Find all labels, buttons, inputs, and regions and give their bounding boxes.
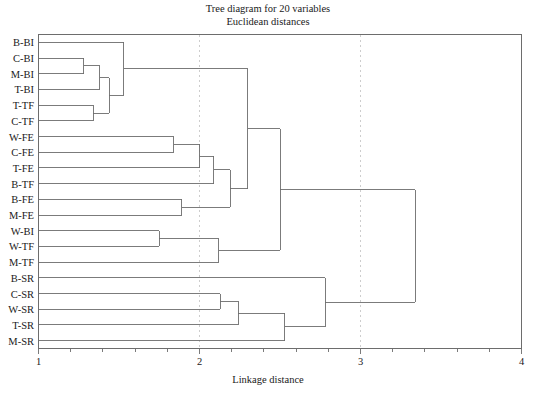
x-tick-label: 3 [351, 356, 371, 367]
leaf-label: M-FE [0, 210, 34, 221]
x-tick-label: 2 [190, 356, 210, 367]
leaf-label: M-TF [0, 257, 34, 268]
leaf-label: C-TF [0, 115, 34, 126]
leaf-label: M-SR [0, 335, 34, 346]
chart-title: Tree diagram for 20 variables [0, 2, 536, 15]
leaf-label: B-TF [0, 178, 34, 189]
chart-title-block: Tree diagram for 20 variables Euclidean … [0, 2, 536, 28]
x-axis-ticks [39, 349, 522, 354]
leaf-label: T-FE [0, 162, 34, 173]
plot-frame [38, 34, 522, 349]
leaf-label: B-BI [0, 37, 34, 48]
leaf-label: B-FE [0, 194, 34, 205]
leaf-label: C-SR [0, 288, 34, 299]
chart-subtitle: Euclidean distances [0, 15, 536, 28]
x-axis-title: Linkage distance [0, 374, 536, 385]
x-tick-label: 4 [512, 356, 532, 367]
leaf-label: B-SR [0, 272, 34, 283]
leaf-label: T-TF [0, 100, 34, 111]
leaf-label: W-SR [0, 304, 34, 315]
leaf-label: T-SR [0, 319, 34, 330]
leaf-label: M-BI [0, 68, 34, 79]
leaf-label: W-BI [0, 225, 34, 236]
leaf-label: C-BI [0, 53, 34, 64]
x-tick-label: 1 [29, 356, 49, 367]
leaf-label: C-FE [0, 147, 34, 158]
leaf-label: T-BI [0, 84, 34, 95]
chart-page: Tree diagram for 20 variables Euclidean … [0, 0, 536, 405]
leaf-label: W-FE [0, 131, 34, 142]
leaf-label: W-TF [0, 241, 34, 252]
